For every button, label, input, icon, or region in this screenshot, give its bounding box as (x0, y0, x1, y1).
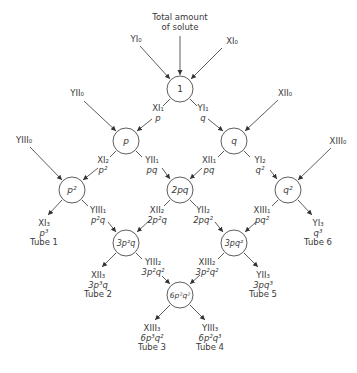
edge-YI1: YI₁ q (197, 104, 208, 123)
edge-XI2: XI₂ p² (97, 156, 109, 175)
tube-label: Tube 5 (249, 290, 277, 300)
tube-label: Tube 4 (196, 343, 224, 353)
tube-4: YIII₃ 6p²q³ Tube 4 (196, 324, 224, 353)
edge-expr: 3p²q² (141, 268, 164, 278)
edge-expr: 2pq² (193, 216, 213, 226)
node-2pq-label: 2pq (171, 185, 188, 195)
edge-expr: p (152, 114, 164, 124)
input-XII0: XII₀ (278, 89, 292, 99)
input-XIII0: XIII₀ (330, 137, 347, 147)
edge-XII2: XII₂ 2p²q (147, 206, 167, 225)
edge-expr: 2p²q (147, 216, 167, 226)
tube-3: XIII₃ 6p³q² Tube 3 (138, 324, 166, 353)
tube-2: XII₃ 3p³q Tube 2 (84, 271, 112, 300)
edge-XII1: XII₁ pq (202, 156, 216, 175)
tube-label: Tube 2 (84, 290, 112, 300)
edge-expr: p²q (90, 216, 106, 226)
tube-5: YII₃ 3pq³ Tube 5 (249, 271, 277, 300)
node-3p2q-label: 3p²q (117, 239, 135, 248)
edge-expr: pq² (254, 216, 271, 226)
edge-expr: pq (145, 166, 159, 176)
input-YIII0: YIII₀ (16, 136, 32, 146)
node-6p2q2-label: 6p²q² (170, 291, 190, 300)
input-YII0: YII₀ (70, 89, 84, 99)
node-1-label: 1 (177, 84, 183, 94)
title-total-amount: Total amount of solute (152, 13, 207, 32)
edge-YII1: YII₁ pq (145, 156, 159, 175)
edge-YIII1: YIII₁ p²q (90, 206, 106, 225)
tube-label: Tube 3 (138, 343, 166, 353)
edge-YI2: YI₂ q² (254, 156, 265, 175)
edge-expr: 3p²q² (195, 268, 218, 278)
edge-XIII2: XIII₂ 3p²q² (195, 258, 218, 277)
edge-XIII1: XIII₁ pq² (254, 206, 271, 225)
tube-label: Tube 6 (304, 238, 332, 248)
node-q2-label: q² (283, 185, 292, 195)
node-p-label: p (123, 136, 129, 146)
node-3pq2-label: 3pq² (225, 239, 243, 248)
edge-expr: pq (202, 166, 216, 176)
edge-expr: p² (97, 166, 109, 176)
title-line-2: of solute (152, 23, 207, 33)
node-q-label: q (231, 136, 237, 146)
edge-expr: q (197, 114, 208, 124)
edge-XI1: XI₁ p (152, 104, 164, 123)
input-XI0: XI₀ (226, 37, 238, 47)
edge-YIII2: YIII₂ 3p²q² (141, 258, 164, 277)
node-p2-label: p² (67, 185, 76, 195)
tube-1: XI₃ p³ Tube 1 (30, 219, 58, 248)
tube-6: YI₃ q³ Tube 6 (304, 219, 332, 248)
tube-label: Tube 1 (30, 238, 58, 248)
edge-expr: q² (254, 166, 265, 176)
edge-YII2: YII₂ 2pq² (193, 206, 213, 225)
input-YI0: YI₀ (130, 35, 141, 45)
